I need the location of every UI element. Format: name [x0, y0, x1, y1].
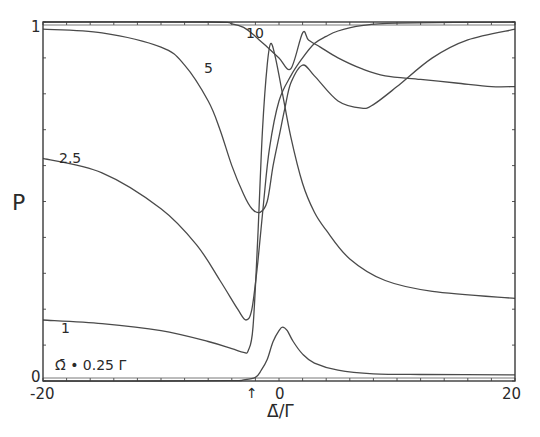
curve-label-5: 5: [204, 61, 213, 75]
y-axis-title: P: [12, 192, 25, 214]
curve-1: [43, 43, 515, 353]
curve-label-10: 10: [246, 26, 264, 40]
curve-2-5: [43, 22, 515, 320]
curve-label-1: 1: [61, 321, 70, 335]
curve-label-0-25: Ω̄ • 0.25 Γ: [55, 358, 126, 372]
x-axis-title: Δ̄/Γ: [267, 403, 294, 420]
y-tick-label-1: 1: [31, 20, 41, 35]
curve-5: [43, 29, 515, 212]
y-tick-label-0: 0: [31, 370, 41, 385]
arrow-marker: ↑: [246, 386, 258, 400]
x-tick-label-0: 0: [275, 387, 285, 402]
curve-label-2-5: 2.5: [59, 151, 81, 165]
x-tick-label-neg20: -20: [30, 387, 55, 402]
curves: [43, 22, 515, 381]
x-tick-label-20: 20: [502, 387, 521, 402]
